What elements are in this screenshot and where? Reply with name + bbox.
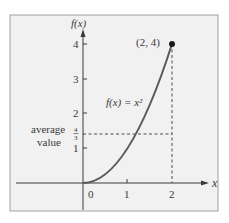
chart-panel: [10, 15, 218, 211]
y-tick-label-4: 4: [73, 38, 79, 50]
x-tick-label-2: 2: [169, 188, 175, 200]
x-axis-label: x: [211, 176, 218, 190]
x-tick-label-0: 0: [88, 188, 94, 200]
y-tick-label-2: 2: [73, 107, 79, 119]
y-tick-label-1: 1: [73, 142, 79, 154]
chart-figure: x f(x) 4 3 2 1 4 3 average value 0 1 2 (…: [0, 0, 229, 223]
endpoint-marker: [169, 41, 175, 47]
y-tick-label-frac-num: 4: [74, 126, 78, 134]
average-value-label-line1: average: [31, 123, 65, 135]
y-axis-label: f(x): [71, 17, 87, 30]
y-tick-label-frac-den: 3: [74, 134, 78, 142]
average-value-label-line2: value: [37, 136, 61, 148]
endpoint-label: (2, 4): [136, 36, 160, 49]
y-tick-label-3: 3: [73, 73, 79, 85]
x-tick-label-1: 1: [124, 188, 130, 200]
curve-label: f(x) = x²: [106, 96, 143, 109]
